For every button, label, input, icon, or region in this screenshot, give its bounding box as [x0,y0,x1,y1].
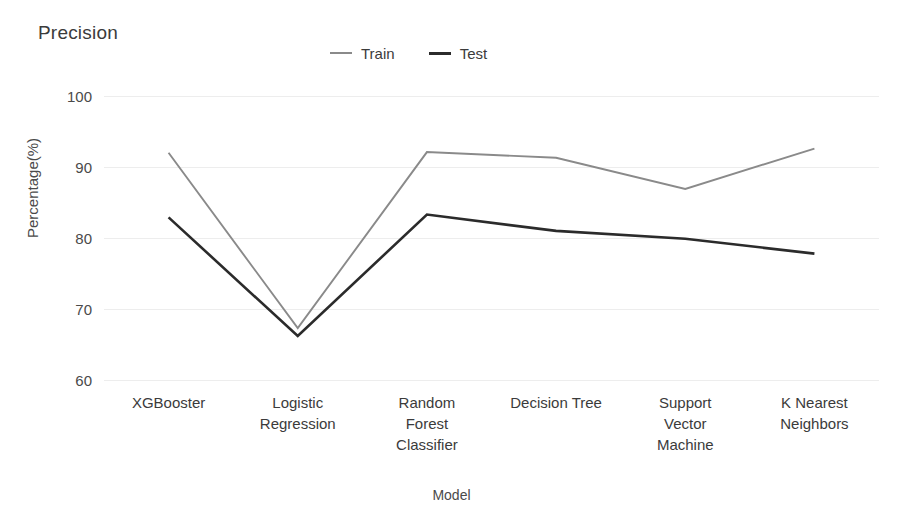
x-axis-title: Model [0,487,903,503]
x-axis-tick-label: Decision Tree [492,392,621,455]
legend-label-train: Train [361,45,395,62]
legend-item-train: Train [330,45,395,62]
y-axis-tick-label: 80 [75,230,92,247]
chart-title: Precision [38,22,118,44]
series-layer [104,96,879,380]
x-axis-tick-labels: XGBoosterLogisticRegressionRandomForestC… [104,392,879,455]
x-axis-tick-label-line: K Nearest [752,392,877,413]
x-axis-tick-label-line: Random [364,392,489,413]
y-axis-title: Percentage(%) [24,138,41,238]
y-axis-tick-label: 60 [75,372,92,389]
y-axis-tick-label: 100 [67,88,92,105]
test-line-swatch [429,52,451,55]
x-axis-tick-label-line: XGBooster [106,392,231,413]
x-axis-tick-label-line: Machine [623,434,748,455]
train-line-swatch [330,52,352,54]
x-axis-tick-label: K NearestNeighbors [750,392,879,455]
gridline [104,380,879,381]
legend-label-test: Test [460,45,488,62]
series-line-test [169,215,815,336]
x-axis-tick-label-line: Vector [623,413,748,434]
x-axis-tick-label-line: Logistic [235,392,360,413]
x-axis-tick-label-line: Forest [364,413,489,434]
x-axis-tick-label-line: Neighbors [752,413,877,434]
y-axis-tick-label: 90 [75,159,92,176]
chart-legend: Train Test [330,43,487,63]
x-axis-tick-label: SupportVectorMachine [621,392,750,455]
y-axis-tick-label: 70 [75,301,92,318]
x-axis-tick-label-line: Classifier [364,434,489,455]
x-axis-tick-label-line: Regression [235,413,360,434]
legend-item-test: Test [429,45,488,62]
x-axis-tick-label-line: Support [623,392,748,413]
plot-area: 10090807060 [104,96,879,380]
x-axis-tick-label: LogisticRegression [233,392,362,455]
chart-canvas: Precision Train Test Percentage(%) 10090… [0,0,903,529]
series-line-train [169,149,815,329]
x-axis-tick-label: XGBooster [104,392,233,455]
x-axis-tick-label-line: Decision Tree [494,392,619,413]
x-axis-tick-label: RandomForestClassifier [362,392,491,455]
